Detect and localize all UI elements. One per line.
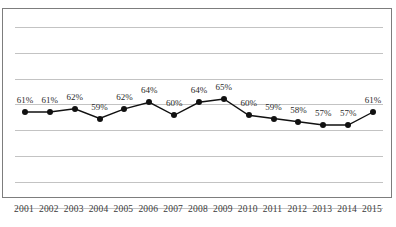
x-tick-label: 2001 (14, 203, 34, 215)
data-point-marker (97, 116, 103, 122)
line-series: 61%61%62%59%62%64%60%64%65%60%59%58%57%5… (3, 9, 393, 199)
x-tick-label: 2008 (188, 203, 208, 215)
x-tick-label: 2005 (114, 203, 134, 215)
data-point-marker (72, 106, 78, 112)
x-tick-label: 2003 (64, 203, 84, 215)
data-point-label: 57% (315, 109, 332, 118)
x-axis-tick-labels: 2001200220032004200520062007200820092010… (2, 203, 392, 223)
data-point-label: 60% (166, 99, 183, 108)
data-point-marker (22, 109, 28, 115)
data-point-label: 64% (141, 86, 158, 95)
data-point-marker (47, 109, 53, 115)
data-point-label: 62% (116, 93, 133, 102)
x-tick-label: 2012 (288, 203, 308, 215)
x-tick-label: 2009 (213, 203, 233, 215)
data-point-label: 61% (42, 96, 59, 105)
data-point-label: 64% (191, 86, 208, 95)
data-point-marker (271, 116, 277, 122)
x-tick-label: 2015 (362, 203, 382, 215)
plot-area: 61%61%62%59%62%64%60%64%65%60%59%58%57%5… (2, 8, 392, 198)
x-tick-label: 2010 (238, 203, 258, 215)
data-point-label: 57% (340, 109, 357, 118)
data-point-marker (246, 112, 252, 118)
data-point-label: 58% (290, 106, 307, 115)
data-point-label: 62% (66, 93, 83, 102)
x-tick-label: 2014 (337, 203, 357, 215)
chart-title-truncated (0, 0, 396, 6)
x-tick-label: 2011 (263, 203, 282, 215)
data-point-label: 59% (91, 103, 108, 112)
data-point-label: 65% (216, 83, 233, 92)
x-tick-label: 2002 (39, 203, 59, 215)
data-point-label: 59% (265, 103, 282, 112)
x-tick-label: 2013 (312, 203, 332, 215)
data-point-label: 61% (365, 96, 382, 105)
x-tick-label: 2004 (89, 203, 109, 215)
x-tick-label: 2007 (163, 203, 183, 215)
x-tick-label: 2006 (138, 203, 158, 215)
data-point-marker (221, 96, 227, 102)
data-point-label: 61% (17, 96, 34, 105)
data-point-marker (370, 109, 376, 115)
data-point-label: 60% (240, 99, 257, 108)
chart-figure: 61%61%62%59%62%64%60%64%65%60%59%58%57%5… (0, 0, 396, 227)
